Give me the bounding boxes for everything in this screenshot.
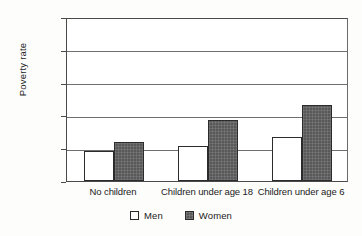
legend-swatch-women-icon — [185, 211, 194, 220]
bar-group — [272, 19, 332, 181]
chart-legend: MenWomen — [0, 210, 362, 221]
legend-item-women: Women — [185, 210, 232, 221]
legend-label: Men — [144, 210, 163, 221]
plot-area — [66, 18, 348, 182]
bar-women-children-under-age-18 — [208, 120, 238, 181]
x-tick-label: No children — [90, 186, 137, 197]
bar-women-no-children — [114, 142, 144, 181]
poverty-rate-bar-chart: Poverty rate 0%10%20%30%40%50% No childr… — [0, 0, 362, 236]
bar-men-no-children — [84, 151, 114, 181]
bar-men-children-under-age-6 — [272, 137, 302, 181]
bar-men-children-under-age-18 — [178, 146, 208, 181]
legend-label: Women — [199, 210, 232, 221]
x-tick-label: Children under age 18 — [161, 186, 253, 197]
x-tick-label: Children under age 6 — [258, 186, 345, 197]
legend-item-men: Men — [130, 210, 163, 221]
bar-group — [178, 19, 238, 181]
y-tick-mark — [61, 182, 66, 183]
legend-swatch-men-icon — [130, 211, 139, 220]
bar-women-children-under-age-6 — [302, 105, 332, 181]
x-axis-labels: No childrenChildren under age 18Children… — [66, 186, 348, 202]
bar-group — [84, 19, 144, 181]
y-axis-title: Poverty rate — [17, 10, 28, 130]
